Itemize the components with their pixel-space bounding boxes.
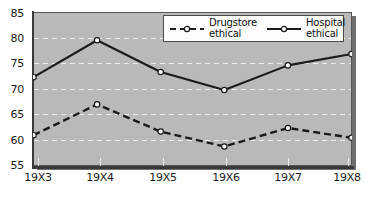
data-point [285, 125, 290, 130]
data-point [94, 102, 99, 107]
y-tick-label-70: 70 [0, 84, 24, 95]
legend: Drugstoreethical Hospitalethical [163, 15, 344, 42]
x-axis [32, 166, 354, 169]
data-point [33, 74, 36, 79]
legend-swatch-dashed-line-icon [169, 23, 205, 35]
legend-label-hospital: Hospitalethical [306, 18, 345, 39]
x-tick-label-19X6: 19X6 [199, 172, 253, 183]
data-point [158, 69, 163, 74]
y-tick-label-80: 80 [0, 33, 24, 44]
legend-swatch-solid-line-icon [266, 23, 302, 35]
y-tick-label-65: 65 [0, 109, 24, 120]
data-point [222, 144, 227, 149]
legend-entry-drugstore: Drugstoreethical [169, 18, 257, 39]
line-chart: 85 80 75 70 65 60 55 19X3 19X4 19X5 19X6… [0, 0, 365, 198]
x-tick-label-19X7: 19X7 [261, 172, 315, 183]
data-point [349, 51, 352, 56]
data-point [94, 38, 99, 43]
x-tick-label-19X8: 19X8 [320, 172, 365, 183]
data-point [33, 133, 36, 138]
series-line-drugstore [34, 104, 352, 146]
y-tick-label-75: 75 [0, 58, 24, 69]
y-tick-label-85: 85 [0, 8, 24, 19]
y-tick-label-55: 55 [0, 160, 24, 171]
series-markers-drugstore [33, 102, 352, 149]
data-point [285, 63, 290, 68]
series-line-hospital [34, 40, 352, 90]
legend-label-drugstore: Drugstoreethical [209, 18, 257, 39]
series-markers-hospital [33, 38, 352, 93]
x-tick-label-19X3: 19X3 [11, 172, 65, 183]
data-point [158, 129, 163, 134]
x-tick-label-19X5: 19X5 [136, 172, 190, 183]
legend-entry-hospital: Hospitalethical [266, 18, 345, 39]
data-point [349, 135, 352, 140]
y-tick-label-60: 60 [0, 135, 24, 146]
x-tick-label-19X4: 19X4 [73, 172, 127, 183]
data-point [222, 87, 227, 92]
